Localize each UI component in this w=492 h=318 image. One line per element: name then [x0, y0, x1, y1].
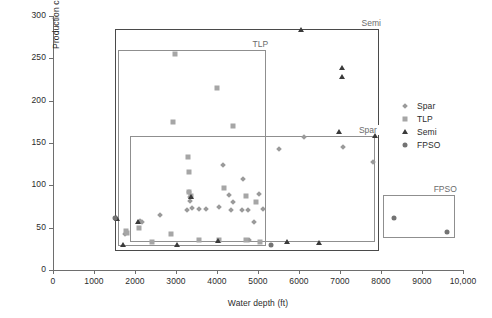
data-point-tlp — [125, 230, 130, 235]
data-point-tlp — [196, 237, 201, 242]
data-point-semi — [298, 27, 304, 32]
data-point-fpso — [392, 215, 397, 220]
group-label-tlp: TLP — [236, 39, 270, 49]
data-point-tlp — [173, 52, 178, 57]
x-tick — [217, 270, 218, 274]
data-point-tlp — [258, 240, 263, 245]
y-tick-label: 100 — [12, 179, 46, 189]
x-tick — [299, 270, 300, 274]
tlp-marker-icon — [403, 117, 408, 122]
plot-area: 050100150200250300 010002000300040005000… — [53, 16, 463, 270]
y-tick — [49, 185, 53, 186]
y-axis-title: Production capacity (Mboepd) — [51, 0, 61, 76]
legend-label: TLP — [417, 113, 433, 126]
legend-label: FPSO — [417, 139, 441, 152]
x-tick — [422, 270, 423, 274]
data-point-tlp — [243, 194, 248, 199]
data-point-tlp — [149, 240, 154, 245]
y-tick-label: 150 — [12, 137, 46, 147]
legend-label: Semi — [417, 126, 437, 139]
data-point-semi — [215, 238, 221, 243]
data-point-semi — [339, 65, 345, 70]
x-axis-title: Water depth (ft) — [53, 298, 463, 308]
x-tick — [135, 270, 136, 274]
data-point-tlp — [168, 232, 173, 237]
data-point-tlp — [186, 169, 191, 174]
data-point-tlp — [253, 200, 258, 205]
legend-item-semi[interactable]: Semi — [405, 126, 475, 139]
data-point-semi — [174, 242, 180, 247]
legend-item-tlp[interactable]: TLP — [405, 113, 475, 126]
data-point-semi — [372, 133, 378, 138]
x-tick — [176, 270, 177, 274]
legend-item-spar[interactable]: Spar — [405, 100, 475, 113]
y-tick — [49, 101, 53, 102]
data-point-tlp — [186, 154, 191, 159]
data-point-semi — [188, 194, 194, 199]
data-point-semi — [339, 74, 345, 79]
data-point-semi — [316, 240, 322, 245]
data-point-tlp — [215, 85, 220, 90]
x-tick — [258, 270, 259, 274]
data-point-fpso — [268, 242, 273, 247]
x-tick — [94, 270, 95, 274]
y-tick-label: 200 — [12, 95, 46, 105]
fpso-marker-icon — [403, 143, 408, 148]
data-point-semi — [135, 219, 141, 224]
y-tick-label: 50 — [12, 222, 46, 232]
x-tick — [53, 270, 54, 274]
data-point-fpso — [113, 215, 118, 220]
x-tick — [463, 270, 464, 274]
data-point-tlp — [137, 225, 142, 230]
legend-item-fpso[interactable]: FPSO — [405, 139, 475, 152]
data-point-tlp — [171, 119, 176, 124]
y-tick-label: 300 — [12, 10, 46, 20]
legend-label: Spar — [417, 100, 435, 113]
legend: SparTLPSemiFPSO — [405, 100, 475, 152]
y-tick — [49, 143, 53, 144]
data-point-semi — [284, 239, 290, 244]
x-tick — [381, 270, 382, 274]
group-label-fpso: FPSO — [425, 184, 459, 194]
semi-marker-icon — [402, 129, 408, 134]
y-tick-label: 250 — [12, 52, 46, 62]
data-point-tlp — [244, 238, 249, 243]
data-point-tlp — [221, 185, 226, 190]
data-point-semi — [336, 129, 342, 134]
data-point-fpso — [444, 229, 449, 234]
x-tick — [340, 270, 341, 274]
y-tick — [49, 228, 53, 229]
data-point-tlp — [231, 124, 236, 129]
group-label-semi: Semi — [349, 18, 383, 28]
data-point-semi — [120, 242, 126, 247]
group-box-spar — [130, 136, 375, 242]
x-tick-label: 10,000 — [438, 276, 488, 286]
y-tick-label: 0 — [12, 264, 46, 274]
scatter-figure: 050100150200250300 010002000300040005000… — [0, 0, 492, 318]
